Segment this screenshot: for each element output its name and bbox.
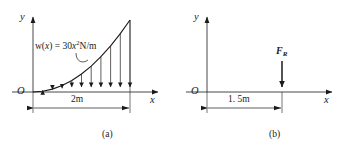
panel-a-origin-label: O — [17, 86, 25, 97]
panel-a-leader-line — [76, 53, 88, 62]
force-label-base: F — [276, 45, 283, 56]
panel-b-drawing — [186, 17, 332, 113]
equation-mid: ) = 30 — [49, 41, 72, 51]
equation-w-prefix: w( — [35, 41, 45, 51]
figure-drawing — [0, 0, 349, 161]
panel-b-y-axis-label: y — [194, 12, 199, 23]
panel-a-drawing — [12, 17, 158, 113]
panel-a-load-arrows — [43, 20, 130, 91]
panel-b-dimension-label: 1. 5m — [228, 95, 250, 105]
figure-container: y x O w(x) = 30x2N/m 2m (a) y x O FR 1. … — [0, 0, 349, 161]
equation-units: N/m — [80, 41, 97, 51]
panel-b-caption: (b) — [269, 130, 280, 140]
panel-a-y-axis-label: y — [20, 12, 25, 23]
panel-b-force-label: FR — [276, 46, 287, 56]
panel-a-caption: (a) — [102, 130, 113, 140]
panel-a-load-equation: w(x) = 30x2N/m — [35, 40, 96, 52]
panel-a-x-axis-label: x — [150, 95, 155, 106]
panel-a-dimension-label: 2m — [71, 95, 83, 105]
panel-b-origin-label: O — [191, 86, 199, 97]
force-label-subscript: R — [283, 50, 288, 58]
panel-b-x-axis-label: x — [324, 95, 329, 106]
